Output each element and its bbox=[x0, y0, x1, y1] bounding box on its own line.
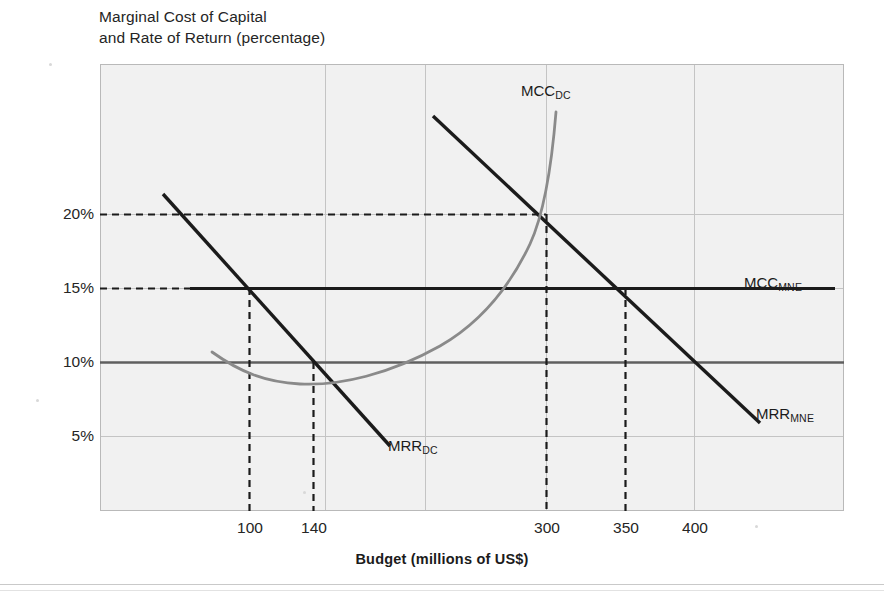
y-tick-20: 20% bbox=[38, 205, 94, 223]
y-tick-5: 5% bbox=[38, 427, 94, 445]
series-label-mcc-dc: MCCDC bbox=[521, 82, 571, 99]
series-label-mcc-mne-sub: MNE bbox=[778, 281, 802, 293]
scan-speck bbox=[49, 63, 52, 66]
chart-figure: Marginal Cost of Capitaland Rate of Retu… bbox=[0, 0, 884, 606]
series-label-mrr-dc: MRRDC bbox=[388, 437, 438, 454]
x-tick-100: 100 bbox=[237, 519, 263, 537]
x-tick-400: 400 bbox=[682, 519, 708, 537]
scan-speck bbox=[36, 399, 39, 402]
scan-speck bbox=[303, 491, 306, 494]
x-tick-140: 140 bbox=[301, 519, 327, 537]
chart-canvas bbox=[100, 64, 844, 511]
scan-speck bbox=[755, 525, 758, 528]
series-label-mrr-dc-main: MRR bbox=[388, 437, 422, 454]
series-label-mrr-mne-sub: MNE bbox=[790, 412, 814, 424]
page-divider-secondary bbox=[0, 590, 884, 591]
y-axis-title-line2: and Rate of Return (percentage) bbox=[99, 29, 325, 46]
series-label-mrr-mne-main: MRR bbox=[756, 405, 790, 422]
y-axis-title-line1: Marginal Cost of Capital bbox=[99, 8, 267, 25]
y-axis-title: Marginal Cost of Capitaland Rate of Retu… bbox=[99, 6, 325, 48]
series-label-mrr-dc-sub: DC bbox=[422, 444, 438, 456]
page-divider bbox=[0, 584, 884, 585]
series-label-mrr-mne: MRRMNE bbox=[756, 405, 814, 422]
x-tick-300: 300 bbox=[534, 519, 560, 537]
y-tick-10: 10% bbox=[38, 353, 94, 371]
x-axis-title: Budget (millions of US$) bbox=[0, 551, 884, 567]
y-tick-15: 15% bbox=[38, 279, 94, 297]
series-label-mcc-dc-main: MCC bbox=[521, 82, 555, 99]
series-label-mcc-mne: MCCMNE bbox=[744, 274, 802, 291]
series-label-mcc-dc-sub: DC bbox=[555, 89, 571, 101]
x-tick-350: 350 bbox=[613, 519, 639, 537]
series-label-mcc-mne-main: MCC bbox=[744, 274, 778, 291]
y-tick-labels: 20% 15% 10% 5% bbox=[30, 64, 94, 511]
plot-area bbox=[100, 64, 844, 511]
